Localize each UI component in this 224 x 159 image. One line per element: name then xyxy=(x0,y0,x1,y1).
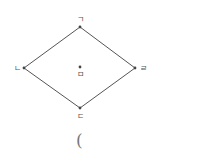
point-dot xyxy=(23,67,26,70)
rhombus-diagram: ㄱ ㄴ ㄷ ㄹ ㅁ ( xyxy=(0,0,224,159)
answer-parenthesis: ( xyxy=(76,130,83,150)
label-left: ㄴ xyxy=(14,64,21,73)
label-right: ㄹ xyxy=(140,64,147,73)
point-dot xyxy=(134,67,137,70)
point-dot xyxy=(79,66,82,69)
label-center: ㅁ xyxy=(77,70,84,79)
point-dot xyxy=(79,26,82,29)
label-bottom: ㄷ xyxy=(77,112,84,121)
label-top: ㄱ xyxy=(77,15,84,24)
point-dot xyxy=(79,107,82,110)
